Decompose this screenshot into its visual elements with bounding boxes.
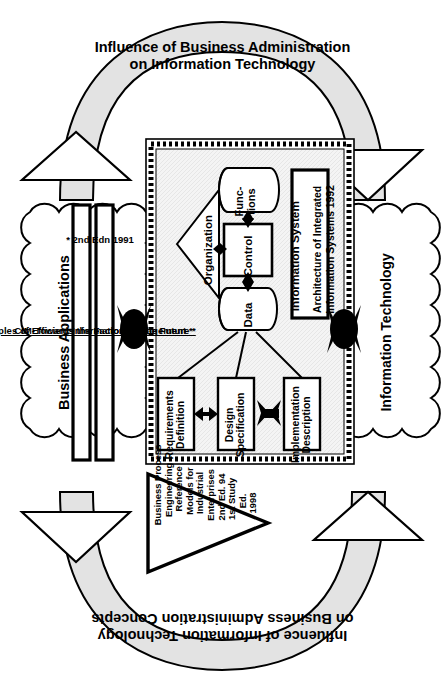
left-book-bar-1: [73, 205, 90, 460]
left-book-bar-2: [96, 205, 113, 460]
diagram-canvas: Influence of Business Administration on …: [0, 0, 445, 690]
diagram-graphics: [0, 0, 445, 690]
architecture-reference-box: [292, 170, 328, 318]
bpe-triangle-line: Ed.: [238, 473, 248, 529]
bpe-triangle-line: 1st Study: [227, 469, 237, 529]
top-left-arrowhead-up-icon: [22, 132, 130, 180]
bpe-triangle-line: 1998: [248, 477, 258, 529]
requirements-definition-box: [158, 378, 194, 450]
design-specification-box: [218, 378, 254, 450]
data-cylinder-icon: [219, 288, 277, 330]
bottom-left-arrowhead-down-icon: [22, 512, 130, 562]
functions-cylinder-icon: [219, 168, 279, 212]
bottom-right-arrowhead-up-icon: [314, 492, 422, 540]
bpe-triangle-text: Business ProcessEngineering -ReferenceMo…: [150, 478, 268, 570]
implementation-description-box: [284, 378, 320, 450]
control-box: [224, 224, 272, 276]
